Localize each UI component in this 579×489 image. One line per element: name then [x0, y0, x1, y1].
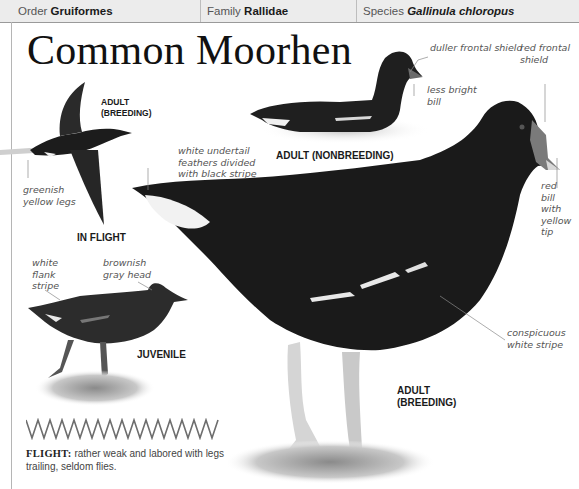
grass-ground — [225, 440, 435, 484]
red-bill-yellow-tip-annotation: red bill with yellow tip — [541, 180, 571, 238]
flight-description-label: FLIGHT: — [26, 448, 72, 459]
brownish-gray-head-annotation: brownish gray head — [103, 257, 151, 280]
adult-nonbreeding-label: ADULT (NONBREEDING) — [276, 150, 394, 162]
greenish-yellow-legs-annotation: greenish yellow legs — [23, 184, 76, 207]
flight-description: FLIGHT: rather weak and labored with leg… — [26, 447, 236, 473]
in-flight-label: IN FLIGHT — [77, 232, 126, 244]
adult-breeding-label: ADULT (BREEDING) — [397, 385, 456, 409]
duller-frontal-shield-annotation: duller frontal shield — [430, 42, 523, 54]
flight-pattern-zigzag-icon — [26, 418, 221, 440]
conspicuous-white-stripe-annotation: conspicuous white stripe — [507, 327, 566, 350]
white-undertail-annotation: white undertail feathers divided with bl… — [178, 145, 257, 180]
juvenile-label: JUVENILE — [137, 349, 186, 361]
bird-illustrations — [0, 0, 579, 489]
red-frontal-shield-annotation: red frontal shield — [520, 42, 570, 65]
white-flank-stripe-annotation: white flank stripe — [32, 257, 59, 292]
less-bright-bill-annotation: less bright bill — [427, 84, 477, 107]
juvenile-bird-illustration — [28, 283, 188, 378]
in-flight-sublabel: ADULT (BREEDING) — [101, 97, 152, 119]
juvenile-grass-ground — [35, 370, 155, 406]
